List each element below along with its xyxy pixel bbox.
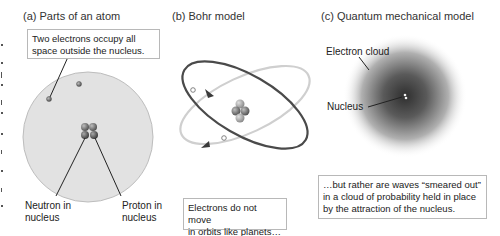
proton-label-line: nucleus — [122, 212, 162, 224]
callout-line: space outside the nucleus. — [32, 45, 155, 57]
neutron-label: Neutron in nucleus — [25, 200, 71, 224]
callout-line: Two electrons occupy all — [32, 33, 155, 45]
proton-label: Proton in nucleus — [122, 200, 162, 224]
callout-line: Electrons do not move — [188, 202, 282, 226]
nucleus-label: Nucleus — [327, 101, 363, 113]
bohr-orbits — [169, 44, 320, 166]
callout-line: by the attraction of the nucleus. — [323, 203, 482, 215]
bohr-electron-2 — [222, 136, 227, 141]
electron-2 — [77, 82, 82, 87]
callout-line: in orbits like planets… — [188, 226, 282, 236]
panel-a-title: (a) Parts of an atom — [23, 10, 120, 22]
panel-c-title: (c) Quantum mechanical model — [321, 10, 474, 22]
bohr-electron-1 — [191, 88, 196, 93]
nucleus-b — [232, 100, 250, 123]
panel-b-callout: Electrons do not move in orbits like pla… — [183, 198, 287, 230]
callout-line: in a cloud of probability held in place — [323, 191, 482, 203]
neutron-label-line: nucleus — [25, 212, 71, 224]
callout-line: …but rather are waves “smeared out” — [323, 179, 482, 191]
page-edge-marks — [1, 44, 3, 207]
proton-label-line: Proton in — [122, 200, 162, 212]
panel-b-title: (b) Bohr model — [172, 10, 245, 22]
panel-a-callout: Two electrons occupy all space outside t… — [27, 29, 160, 59]
electron-cloud-label: Electron cloud — [326, 46, 389, 58]
neutron-label-line: Neutron in — [25, 200, 71, 212]
electron-1 — [47, 97, 52, 102]
panel-c-callout: …but rather are waves “smeared out” in a… — [318, 175, 487, 219]
